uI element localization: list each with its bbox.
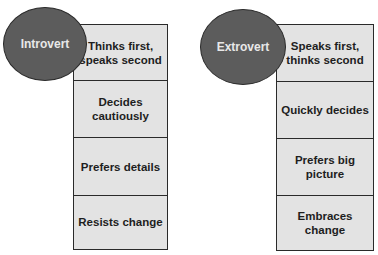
extrovert-trait-box: Prefers big picture	[277, 138, 373, 195]
extrovert-ellipse: Extrovert	[200, 9, 286, 85]
extrovert-trait-text: Embraces change	[281, 209, 369, 237]
introvert-trait-text: Prefers details	[81, 160, 160, 174]
introvert-trait-box: Prefers details	[74, 137, 167, 195]
introvert-trait-text: Resists change	[78, 215, 162, 229]
introvert-trait-box: Resists change	[74, 195, 167, 248]
extrovert-trait-text: Speaks first, thinks second	[281, 39, 369, 67]
extrovert-traits-column: Speaks first, thinks second Quickly deci…	[276, 24, 374, 251]
introvert-trait-box: Thinks first, speaks second	[74, 25, 167, 80]
extrovert-trait-box: Speaks first, thinks second	[277, 25, 373, 81]
introvert-traits-column: Thinks first, speaks second Decides caut…	[73, 24, 168, 250]
introvert-label: Introvert	[21, 37, 70, 51]
extrovert-trait-box: Embraces change	[277, 195, 373, 249]
introvert-ellipse: Introvert	[3, 7, 87, 81]
introvert-trait-text: Decides cautiously	[78, 95, 163, 123]
introvert-trait-text: Thinks first, speaks second	[78, 39, 163, 67]
extrovert-trait-text: Prefers big picture	[281, 153, 369, 181]
extrovert-label: Extrovert	[217, 40, 270, 54]
introvert-trait-box: Decides cautiously	[74, 80, 167, 137]
extrovert-trait-box: Quickly decides	[277, 81, 373, 138]
extrovert-trait-text: Quickly decides	[281, 103, 369, 117]
